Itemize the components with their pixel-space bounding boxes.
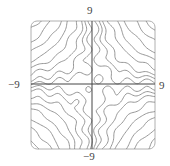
contour-line <box>31 21 155 149</box>
contour-plot <box>0 0 170 166</box>
contour-line <box>31 21 155 149</box>
contour-line <box>31 21 155 149</box>
tick-label-bottom: −9 <box>83 151 95 162</box>
tick-label-top: 9 <box>87 5 93 16</box>
contour-lines <box>31 21 155 149</box>
contour-line <box>31 21 155 149</box>
contour-line <box>31 21 155 149</box>
tick-label-left: −9 <box>8 79 20 90</box>
plot-frame <box>31 21 155 149</box>
contour-line <box>31 21 155 149</box>
contour-line <box>31 21 155 149</box>
contour-line <box>31 21 155 149</box>
contour-line <box>31 21 155 149</box>
contour-line <box>31 21 155 149</box>
contour-line <box>31 21 155 149</box>
contour-line <box>31 21 155 149</box>
contour-line <box>31 21 155 149</box>
tick-label-right: 9 <box>159 80 165 91</box>
contour-line <box>31 21 155 149</box>
contour-line <box>31 21 155 149</box>
contour-line <box>31 21 155 149</box>
